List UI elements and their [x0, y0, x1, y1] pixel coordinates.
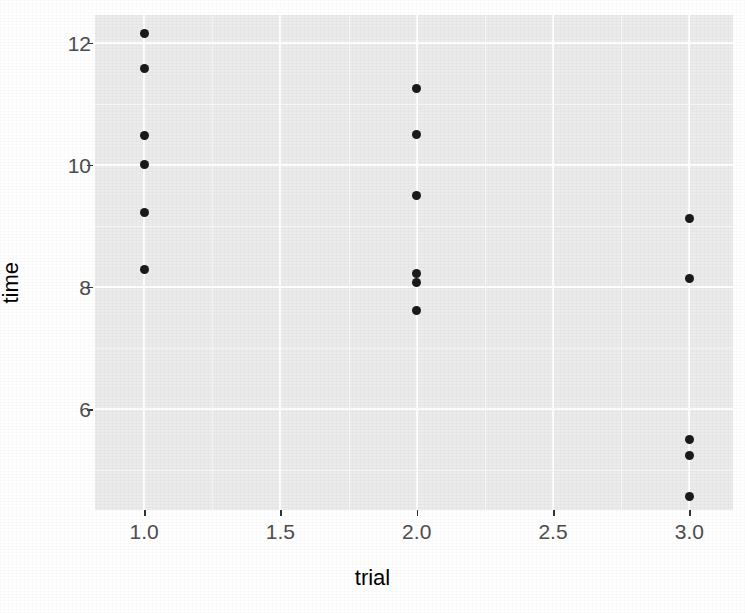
data-point	[685, 214, 694, 223]
gridline-major-vertical	[279, 15, 281, 510]
gridline-minor-horizontal	[95, 348, 733, 349]
x-tick-label: 3.0	[675, 521, 704, 542]
gridline-major-horizontal	[95, 164, 733, 166]
gridline-major-horizontal	[95, 42, 733, 44]
data-point	[685, 492, 694, 501]
x-tick-label: 1.5	[266, 521, 295, 542]
data-point	[685, 274, 694, 283]
data-point	[412, 84, 421, 93]
data-point	[412, 130, 421, 139]
data-point	[685, 451, 694, 460]
data-point	[140, 29, 149, 38]
data-point	[140, 131, 149, 140]
data-point	[140, 265, 149, 274]
plot-panel	[95, 15, 733, 510]
scatter-plot: 1210861.01.52.02.53.0 trial time	[0, 0, 745, 613]
gridline-major-vertical	[143, 15, 145, 510]
data-point	[412, 306, 421, 315]
gridline-major-vertical	[552, 15, 554, 510]
y-axis-title-text: time	[0, 262, 22, 304]
y-tick-label: 10	[68, 154, 91, 175]
data-point	[412, 191, 421, 200]
gridline-minor-vertical	[621, 15, 622, 510]
x-tick-label: 1.0	[129, 521, 158, 542]
gridline-minor-horizontal	[95, 104, 733, 105]
gridline-minor-horizontal	[95, 226, 733, 227]
x-axis-title: trial	[0, 567, 745, 589]
x-tick-mark	[417, 510, 419, 516]
x-tick-mark	[280, 510, 282, 516]
x-tick-mark	[689, 510, 691, 516]
x-tick-mark	[553, 510, 555, 516]
y-tick-label: 8	[79, 276, 91, 297]
x-tick-label: 2.5	[538, 521, 567, 542]
x-tick-mark	[144, 510, 146, 516]
data-point	[412, 278, 421, 287]
data-point	[140, 160, 149, 169]
gridline-minor-vertical	[485, 15, 486, 510]
gridline-major-horizontal	[95, 408, 733, 410]
x-tick-label: 2.0	[402, 521, 431, 542]
data-point	[140, 208, 149, 217]
data-point	[412, 269, 421, 278]
y-tick-label: 6	[79, 399, 91, 420]
y-tick-label: 12	[68, 32, 91, 53]
data-point	[685, 435, 694, 444]
gridline-minor-vertical	[212, 15, 213, 510]
gridline-minor-vertical	[349, 15, 350, 510]
data-point	[140, 64, 149, 73]
gridline-minor-horizontal	[95, 470, 733, 471]
